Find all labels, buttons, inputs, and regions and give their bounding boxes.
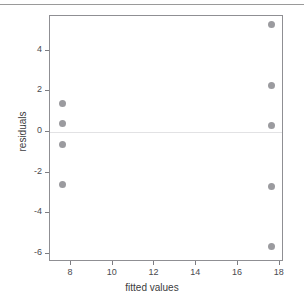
data-point: [59, 120, 66, 127]
data-point: [268, 183, 275, 190]
zero-reference-line: [50, 132, 282, 133]
x-tick: [112, 261, 113, 265]
plot-panel: [49, 15, 283, 261]
x-tick-label: 8: [55, 267, 85, 278]
x-tick-label: 12: [138, 267, 168, 278]
data-point: [268, 122, 275, 129]
y-tick-label: 4: [14, 44, 42, 55]
data-point: [268, 21, 275, 28]
x-axis-title: fitted values: [0, 282, 304, 293]
x-tick: [195, 261, 196, 265]
x-tick: [153, 261, 154, 265]
y-axis-title: residuals: [17, 62, 28, 202]
y-tick-label: -6: [14, 247, 42, 258]
y-tick: [45, 50, 49, 51]
x-tick: [237, 261, 238, 265]
x-tick: [279, 261, 280, 265]
x-tick: [70, 261, 71, 265]
y-tick: [45, 131, 49, 132]
data-point: [59, 100, 66, 107]
residuals-vs-fitted-scatter-plot: 81012141618 420-2-4-6 fitted values resi…: [0, 0, 304, 307]
y-tick: [45, 90, 49, 91]
x-tick-label: 14: [180, 267, 210, 278]
data-point: [268, 243, 275, 250]
data-point: [59, 141, 66, 148]
y-tick: [45, 212, 49, 213]
x-tick-label: 18: [264, 267, 294, 278]
x-tick-label: 10: [97, 267, 127, 278]
x-tick-label: 16: [222, 267, 252, 278]
y-tick: [45, 253, 49, 254]
y-tick: [45, 172, 49, 173]
y-tick-label: -4: [14, 206, 42, 217]
data-point: [59, 181, 66, 188]
data-point: [268, 82, 275, 89]
